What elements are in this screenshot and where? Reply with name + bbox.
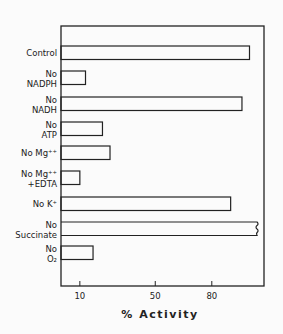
bar-chart: ControlNoNADPHNoNADHNoATPNo Mg⁺⁺No Mg⁺⁺+…	[0, 0, 283, 334]
category-label: No	[45, 244, 57, 254]
bar	[61, 46, 250, 60]
category-label: Control	[26, 48, 57, 58]
bar	[61, 197, 231, 211]
bar	[61, 122, 102, 136]
category-labels: ControlNoNADPHNoNADHNoATPNo Mg⁺⁺No Mg⁺⁺+…	[15, 48, 57, 264]
category-label: No Mg⁺⁺	[21, 169, 57, 179]
bars	[61, 46, 258, 260]
bar	[61, 97, 242, 111]
category-label: No	[45, 120, 57, 130]
category-label: No K⁺	[33, 199, 57, 209]
bar	[61, 246, 93, 260]
category-label: No	[45, 69, 57, 79]
category-label: No	[45, 95, 57, 105]
x-tick-label: 80	[206, 291, 217, 301]
category-label: O₂	[47, 254, 57, 264]
category-label: No Mg⁺⁺	[21, 148, 57, 158]
category-label: NADPH	[27, 79, 57, 89]
x-tick-label: 10	[74, 291, 85, 301]
x-axis-title: % Activity	[121, 308, 198, 321]
category-label: NADH	[32, 105, 57, 115]
x-tick-label: 50	[150, 291, 161, 301]
category-label: ATP	[42, 130, 57, 140]
bar-broken	[61, 222, 258, 236]
plot-frame	[61, 26, 264, 286]
category-label: +EDTA	[28, 179, 58, 189]
category-label: No	[45, 220, 57, 230]
x-axis-ticks: 105080	[74, 281, 217, 301]
bar	[61, 171, 80, 185]
category-label: Succinate	[15, 230, 57, 240]
bar	[61, 71, 86, 85]
bar	[61, 146, 110, 160]
